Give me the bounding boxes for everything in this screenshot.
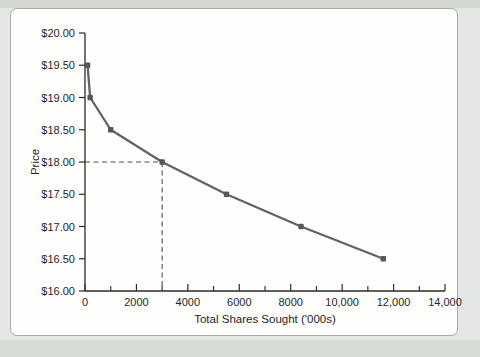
y-tick-label: $20.00 bbox=[41, 27, 75, 39]
x-tick-label: 14,000 bbox=[428, 296, 462, 308]
y-tick-label: $18.00 bbox=[41, 156, 75, 168]
y-tick-label: $17.50 bbox=[41, 188, 75, 200]
data-point-marker bbox=[87, 95, 92, 100]
data-point-marker bbox=[381, 256, 386, 261]
y-tick-label: $19.50 bbox=[41, 59, 75, 71]
x-axis-title: Total Shares Sought ('000s) bbox=[194, 313, 336, 325]
data-point-marker bbox=[224, 192, 229, 197]
x-tick-label: 2000 bbox=[124, 296, 148, 308]
data-point-marker bbox=[85, 63, 90, 68]
x-tick-label: 4000 bbox=[176, 296, 200, 308]
y-tick-label: $17.00 bbox=[41, 221, 75, 233]
data-point-marker bbox=[298, 224, 303, 229]
y-tick-label: $16.50 bbox=[41, 253, 75, 265]
data-point-marker bbox=[159, 159, 164, 164]
x-tick-label: 6000 bbox=[227, 296, 251, 308]
figure-background: $16.00$16.50$17.00$17.50$18.00$18.50$19.… bbox=[0, 0, 480, 357]
x-tick-label: 12,000 bbox=[377, 296, 411, 308]
y-tick-label: $19.00 bbox=[41, 92, 75, 104]
chart-layer: $16.00$16.50$17.00$17.50$18.00$18.50$19.… bbox=[41, 27, 461, 308]
y-axis-title: Price bbox=[29, 149, 41, 175]
x-tick-label: 8000 bbox=[278, 296, 302, 308]
x-tick-label: 10,000 bbox=[325, 296, 359, 308]
data-point-marker bbox=[108, 127, 113, 132]
price-demand-chart: $16.00$16.50$17.00$17.50$18.00$18.50$19.… bbox=[0, 0, 480, 357]
y-tick-label: $18.50 bbox=[41, 124, 75, 136]
y-tick-label: $16.00 bbox=[41, 285, 75, 297]
x-tick-label: 0 bbox=[82, 296, 88, 308]
